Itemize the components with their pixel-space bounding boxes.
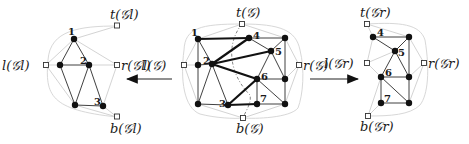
center-vertex-label-4: 4 <box>253 30 260 41</box>
left-vertex-label-2: 2 <box>80 55 87 66</box>
center-graph: 1 2 3 4 5 6 7 t(𝒢) l(𝒢) r(𝒢) b(𝒢) <box>143 5 328 136</box>
left-terminal-bottom-label: b(𝒢l) <box>110 121 142 136</box>
right-terminal-right <box>422 61 427 66</box>
center-vertex-6 <box>254 76 260 82</box>
right-vertex-label-6: 6 <box>385 67 392 78</box>
center-terminal-left <box>182 63 187 68</box>
left-terminal-left-label: l(𝒢l) <box>2 58 29 73</box>
right-terminal-right-label: r(𝒢r) <box>428 56 460 71</box>
right-terminal-left-label: l(𝒢r) <box>324 56 354 71</box>
left-terminal-top <box>115 23 120 28</box>
center-vertex <box>282 101 288 107</box>
center-terminal-right <box>297 63 302 68</box>
center-vertex-label-2: 2 <box>203 55 210 66</box>
right-vertex-label-5: 5 <box>398 47 405 58</box>
left-terminal-left <box>44 63 49 68</box>
center-terminal-top-label: t(𝒢) <box>236 5 260 20</box>
center-terminal-top <box>240 22 245 27</box>
center-terminal-bottom-label: b(𝒢) <box>236 121 263 136</box>
right-vertex-6 <box>378 74 384 80</box>
center-vertex-label-3: 3 <box>219 98 226 109</box>
center-vertex-label-7: 7 <box>260 93 267 104</box>
center-vertex-4 <box>246 35 252 41</box>
right-vertex <box>406 34 412 40</box>
right-terminal-bottom-label: b(𝒢r) <box>360 119 394 134</box>
right-vertex-label-7: 7 <box>384 93 391 104</box>
left-terminal-top-label: t(𝒢l) <box>110 7 139 22</box>
left-terminal-bottom <box>115 114 120 119</box>
left-vertex <box>72 102 78 108</box>
right-vertex-label-4: 4 <box>377 27 384 38</box>
right-terminal-top-label: t(𝒢r) <box>360 5 391 20</box>
center-vertex-label-5: 5 <box>275 46 282 57</box>
center-vertex <box>195 62 201 68</box>
center-terminal-bottom <box>241 116 246 121</box>
left-vertex <box>57 62 63 68</box>
center-vertex <box>282 35 288 41</box>
left-graph: 1 2 3 t(𝒢l) l(𝒢l) r(𝒢l) b(𝒢l) <box>2 7 151 136</box>
left-vertex-label-1: 1 <box>68 26 75 37</box>
left-terminal-right <box>115 63 120 68</box>
left-vertex-label-3: 3 <box>94 96 101 107</box>
center-vertex-label-6: 6 <box>261 71 268 82</box>
right-graph: 4 5 6 7 t(𝒢r) l(𝒢r) r(𝒢r) b(𝒢r) <box>324 5 460 134</box>
center-vertex-label-1: 1 <box>191 27 198 38</box>
right-vertex <box>406 74 412 80</box>
right-vertex <box>406 100 412 106</box>
center-vertex <box>195 101 201 107</box>
right-terminal-left <box>365 61 370 66</box>
right-vertex-4 <box>370 34 376 40</box>
right-terminal-top <box>365 22 370 27</box>
center-terminal-left-label: l(𝒢) <box>143 58 166 73</box>
left-graph-outline <box>47 26 117 117</box>
graph-decomposition-diagram: 1 2 3 t(𝒢l) l(𝒢l) r(𝒢l) b(𝒢l) <box>0 0 469 144</box>
center-vertex-5 <box>268 48 274 54</box>
center-vertex <box>282 76 288 82</box>
right-terminal-bottom <box>366 114 371 119</box>
